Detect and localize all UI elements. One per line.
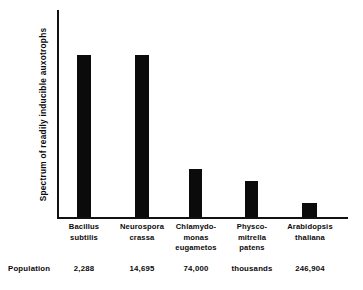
x-axis-line [57,217,348,219]
y-axis-title: Spectrum of readily inducible auxotrophs [36,7,50,222]
population-row-header: Population [8,264,50,273]
bar-4 [302,203,317,217]
population-value-4: 246,904 [274,264,346,273]
x-axis-label-0: Bacillus subtilis [52,222,116,243]
bar-chart-figure: Spectrum of readily inducible auxotrophs… [0,0,363,290]
bar-2 [189,169,202,217]
population-value-0: 2,288 [52,264,116,273]
x-axis-label-4: Arabidopsis thaliana [274,222,346,243]
bar-3 [245,181,258,217]
bar-1 [135,55,149,217]
y-axis-line [57,10,59,219]
bar-0 [77,55,91,217]
